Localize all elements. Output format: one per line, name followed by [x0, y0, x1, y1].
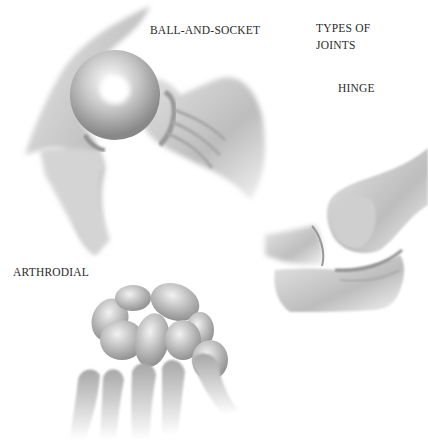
page-title: TYPES OF JOINTS [316, 20, 370, 54]
hinge-joint [265, 148, 428, 312]
joint-illustrations [0, 0, 428, 447]
arthrodial-joint [70, 277, 238, 440]
title-line-2: JOINTS [316, 37, 370, 54]
ball-and-socket-joint [25, 6, 265, 255]
label-ball-and-socket: BALL-AND-SOCKET [150, 22, 260, 39]
label-arthrodial: ARTHRODIAL [13, 264, 89, 281]
title-line-1: TYPES OF [316, 20, 370, 37]
label-hinge: HINGE [338, 80, 375, 97]
